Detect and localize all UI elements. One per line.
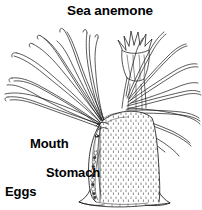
tentacles-left <box>5 28 105 127</box>
base-shading <box>104 203 136 207</box>
figure-title: Sea anemone <box>67 4 153 18</box>
sea-anemone-figure: Sea anemone Mouth Stomach Eggs <box>0 0 202 210</box>
sea-anemone-illustration <box>0 0 202 210</box>
anatomy-label-eggs: Eggs <box>5 185 36 198</box>
body-column-shading <box>100 111 160 202</box>
anatomy-label-mouth: Mouth <box>30 137 68 150</box>
anatomy-label-stomach: Stomach <box>46 166 100 179</box>
